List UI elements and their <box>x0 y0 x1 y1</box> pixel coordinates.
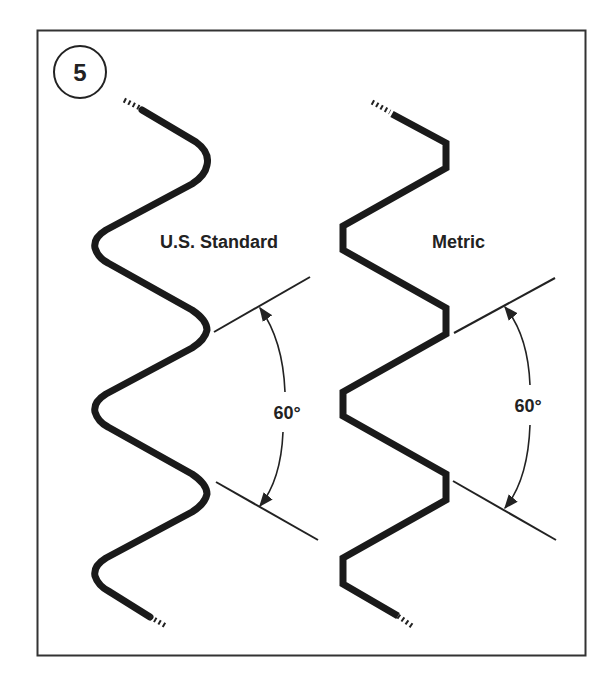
metric-thread-profile <box>343 102 446 626</box>
metric-angle-dimension: 60° <box>453 278 556 540</box>
step-number: 5 <box>73 59 86 86</box>
figure-frame <box>38 31 586 656</box>
us-extension-line-lower <box>216 482 318 540</box>
metric-thread-dotted-start <box>372 102 390 112</box>
us-angle-arc-upper <box>260 308 285 392</box>
thread-profile-diagram: 5 U.S. Standard Metric 60° 60° <box>0 0 609 683</box>
us-angle-label: 60° <box>273 403 300 423</box>
metric-extension-line-upper <box>454 278 555 333</box>
step-badge: 5 <box>54 46 106 98</box>
us-angle-dimension: 60° <box>214 277 318 540</box>
us-thread-dotted-start <box>124 100 140 108</box>
us-extension-line-upper <box>214 277 310 332</box>
us-standard-label: U.S. Standard <box>160 232 278 252</box>
metric-angle-label: 60° <box>514 396 541 416</box>
metric-angle-arc-upper <box>505 307 530 385</box>
metric-label: Metric <box>432 232 485 252</box>
us-angle-arc-lower <box>260 432 283 506</box>
metric-thread-dotted-end <box>398 616 412 626</box>
us-standard-thread-profile <box>95 100 208 626</box>
us-thread-outline <box>95 110 208 617</box>
metric-angle-arc-lower <box>505 425 530 508</box>
metric-thread-outline <box>343 114 446 616</box>
metric-extension-line-lower <box>453 481 556 540</box>
